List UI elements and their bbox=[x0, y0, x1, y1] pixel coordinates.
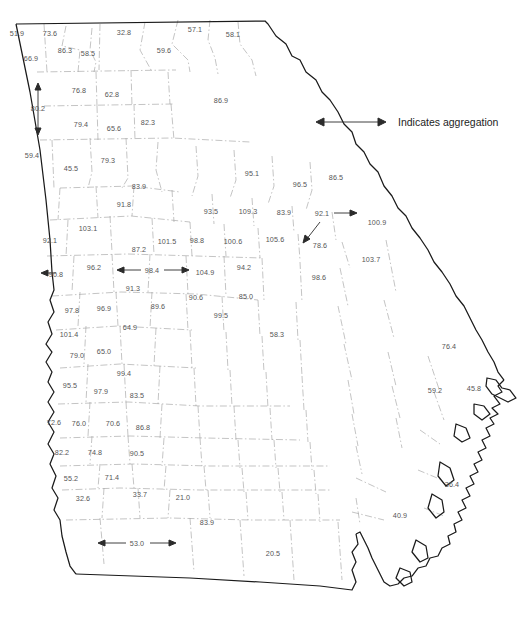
county-value-label: 94.2 bbox=[237, 263, 251, 272]
county-value-label: 91.8 bbox=[117, 200, 131, 209]
county-value-label: 97.8 bbox=[65, 306, 79, 315]
county-value-label: 98.4 bbox=[145, 266, 159, 275]
county-value-label: 66.9 bbox=[24, 54, 38, 63]
county-value-label: 90.8 bbox=[49, 270, 63, 279]
county-value-label: 21.0 bbox=[176, 493, 190, 502]
county-value-label: 82.3 bbox=[141, 118, 155, 127]
county-value-label: 92.1 bbox=[43, 236, 57, 245]
county-value-label: 97.9 bbox=[94, 387, 108, 396]
state-outline bbox=[16, 21, 516, 590]
county-value-label: 53.0 bbox=[130, 539, 144, 548]
county-value-label: 96.5 bbox=[293, 180, 307, 189]
county-value-label: 79.4 bbox=[74, 120, 88, 129]
county-value-label: 80.2 bbox=[31, 104, 45, 113]
map-canvas bbox=[0, 0, 529, 632]
county-value-label: 86.9 bbox=[214, 96, 228, 105]
county-value-label: 103.1 bbox=[79, 224, 98, 233]
county-value-label: 58.3 bbox=[270, 330, 284, 339]
county-value-label: 101.5 bbox=[158, 237, 177, 246]
county-value-label: 96.2 bbox=[87, 263, 101, 272]
georgia-value-map: 51.973.632.857.158.186.358.559.666.976.8… bbox=[0, 0, 529, 632]
county-value-label: 87.2 bbox=[132, 245, 146, 254]
county-value-label: 104.9 bbox=[196, 268, 215, 277]
county-value-label: 51.9 bbox=[10, 29, 24, 38]
county-value-label: 40.9 bbox=[393, 511, 407, 520]
county-value-label: 99.5 bbox=[214, 311, 228, 320]
county-value-label: 32.8 bbox=[117, 28, 131, 37]
county-value-label: 90.5 bbox=[130, 449, 144, 458]
county-value-label: 76.4 bbox=[442, 342, 456, 351]
county-value-label: 86.5 bbox=[329, 173, 343, 182]
county-value-label: 62.8 bbox=[105, 90, 119, 99]
county-value-label: 98.6 bbox=[312, 273, 326, 282]
legend-double-headed-arrow-icon bbox=[316, 118, 386, 126]
county-value-label: 32.6 bbox=[76, 494, 90, 503]
county-value-label: 92.1 bbox=[315, 209, 329, 218]
county-value-label: 83.9 bbox=[200, 518, 214, 527]
county-value-label: 103.7 bbox=[362, 255, 381, 264]
county-value-label: 72.6 bbox=[47, 418, 61, 427]
county-value-label: 93.5 bbox=[204, 207, 218, 216]
county-value-label: 109.3 bbox=[239, 207, 258, 216]
county-value-label: 101.4 bbox=[60, 330, 79, 339]
county-value-label: 20.5 bbox=[266, 549, 280, 558]
county-value-label: 83.9 bbox=[277, 208, 291, 217]
county-value-label: 100.6 bbox=[224, 237, 243, 246]
county-value-label: 74.8 bbox=[88, 448, 102, 457]
county-value-label: 99.4 bbox=[117, 369, 131, 378]
county-value-label: 59.6 bbox=[157, 46, 171, 55]
county-value-label: 91.3 bbox=[126, 284, 140, 293]
county-value-label: 57.1 bbox=[188, 25, 202, 34]
county-value-label: 76.0 bbox=[72, 419, 86, 428]
county-value-label: 45.5 bbox=[64, 164, 78, 173]
county-value-label: 58.5 bbox=[81, 49, 95, 58]
county-value-label: 73.6 bbox=[43, 29, 57, 38]
county-value-label: 58.1 bbox=[226, 30, 240, 39]
county-value-label: 79.0 bbox=[70, 351, 84, 360]
county-value-label: 65.6 bbox=[107, 124, 121, 133]
county-value-label: 83.9 bbox=[132, 182, 146, 191]
county-value-label: 78.6 bbox=[313, 241, 327, 250]
county-value-label: 70.6 bbox=[106, 419, 120, 428]
county-value-label: 86.3 bbox=[58, 46, 72, 55]
county-value-label: 86.8 bbox=[136, 423, 150, 432]
county-value-label: 55.2 bbox=[64, 474, 78, 483]
county-value-label: 33.7 bbox=[133, 490, 147, 499]
county-value-label: 79.3 bbox=[101, 156, 115, 165]
county-value-label: 105.6 bbox=[266, 235, 285, 244]
county-value-label: 95.5 bbox=[63, 381, 77, 390]
county-value-label: 85.0 bbox=[239, 292, 253, 301]
county-value-label: 83.5 bbox=[130, 391, 144, 400]
county-value-label: 96.9 bbox=[97, 304, 111, 313]
county-value-label: 76.8 bbox=[72, 86, 86, 95]
county-value-label: 98.8 bbox=[190, 236, 204, 245]
county-value-label: 59.4 bbox=[25, 151, 39, 160]
legend-label: Indicates aggregation bbox=[398, 116, 498, 128]
county-value-label: 65.0 bbox=[97, 347, 111, 356]
county-value-label: 90.6 bbox=[189, 293, 203, 302]
county-value-label: 71.4 bbox=[105, 473, 119, 482]
single-arrow-icon-92-right bbox=[334, 210, 357, 216]
county-value-label: 95.1 bbox=[245, 169, 259, 178]
county-value-label: 59.2 bbox=[428, 386, 442, 395]
county-value-label: 45.8 bbox=[467, 384, 481, 393]
county-value-label: 82.2 bbox=[55, 448, 69, 457]
county-value-label: 36.4 bbox=[445, 480, 459, 489]
county-value-label: 100.9 bbox=[368, 218, 387, 227]
county-value-label: 89.6 bbox=[151, 302, 165, 311]
county-value-label: 64.9 bbox=[123, 323, 137, 332]
aggregation-arrows bbox=[35, 83, 386, 546]
